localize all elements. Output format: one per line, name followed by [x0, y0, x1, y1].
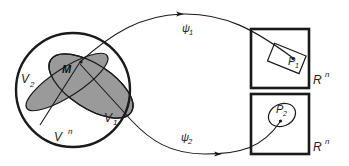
neighborhood-v2-label: V [21, 72, 30, 86]
point-m-label: M [62, 63, 72, 75]
target-space-1-box [251, 29, 309, 88]
neighborhood-v1-subscript: 1 [113, 118, 117, 127]
target-point-p1-subscript: 1 [295, 62, 299, 69]
manifold-chart-diagram: M V 2 V 1 V n ψ 1 ψ 2 P 1 P 2 R n R n [0, 0, 349, 166]
point-p2 [279, 119, 282, 122]
map-psi1-subscript: 1 [189, 28, 193, 37]
map-psi2-subscript: 2 [187, 137, 193, 146]
domain-superscript: n [68, 127, 73, 136]
neighborhood-v1-label: V [104, 111, 113, 125]
domain-label: V [54, 130, 63, 144]
target-space-1-label: R [313, 73, 322, 87]
target-region-1-rect [267, 43, 306, 73]
target-space-2-label: R [313, 140, 322, 154]
target-space-1-superscript: n [325, 70, 330, 79]
target-space-2-superscript: n [325, 137, 330, 146]
neighborhood-v2-subscript: 2 [29, 80, 35, 89]
target-point-p2-subscript: 2 [282, 110, 287, 117]
